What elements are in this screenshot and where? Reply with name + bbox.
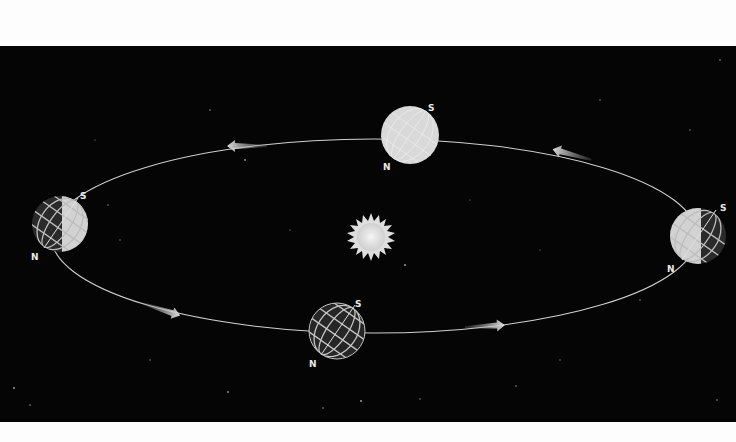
earth-left: S N: [25, 186, 102, 262]
arrow-icon-bottom-left: [140, 297, 182, 321]
earth-bottom: S N: [302, 291, 377, 369]
sun-icon: [347, 213, 395, 261]
pole-label-n: N: [31, 252, 39, 262]
pole-label-s: S: [80, 191, 86, 201]
arrow-icon-top-left: [227, 140, 267, 152]
arrow-icon-top-right: [551, 144, 593, 166]
pole-label-n: N: [667, 264, 675, 274]
pole-label-n: N: [383, 162, 391, 172]
pole-label-s: S: [428, 103, 434, 113]
earth-top: S N: [375, 100, 445, 174]
pole-label-s: S: [720, 203, 726, 213]
earth-right: S N: [660, 200, 733, 274]
pole-label-s: S: [355, 299, 361, 309]
arrow-icon-bottom-right: [465, 319, 506, 333]
orbit-diagram: S N S N: [0, 0, 736, 442]
pole-label-n: N: [309, 359, 317, 369]
